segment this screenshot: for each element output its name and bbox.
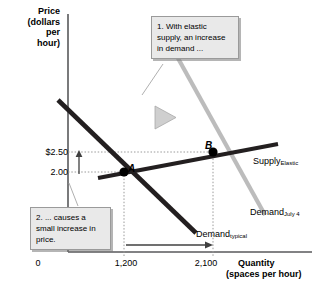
y-axis-title-line1: Price	[38, 6, 60, 16]
leader-callout-2	[69, 183, 78, 206]
x-tick-label-2100: 2,100	[188, 258, 224, 268]
point-b-label: B	[205, 140, 212, 151]
x-axis-title-line2: (spaces per hour)	[226, 269, 318, 280]
y-axis-title-line3: per	[46, 27, 60, 37]
curve-label-demand-july4: DemandJuly 4	[250, 207, 300, 217]
curve-label-demand-typical-name: Demand	[196, 229, 230, 239]
y-axis-title-line4: hour)	[37, 38, 60, 48]
chart-canvas: stop offset="0" stop-color="#4a4a4a"/ st…	[0, 0, 319, 290]
y-tick-label-200: 2.00	[26, 167, 68, 177]
curve-label-demand-typical: Demandtypical	[196, 229, 247, 239]
demand-shift-arrow	[84, 106, 176, 129]
callout-box-2: 2. ... causes a small increase in price.	[30, 207, 111, 250]
y-axis-title: Price (dollars per hour)	[4, 6, 60, 48]
x-tick-label-0: 0	[32, 258, 44, 268]
curve-label-demand-july-subscript: July 4	[284, 211, 300, 217]
y-axis-title-line2: (dollars	[27, 17, 60, 27]
callout-box-1: 1. With elastic supply, an increase in d…	[151, 16, 239, 59]
x-axis-title: Quantity (spaces per hour)	[238, 258, 318, 279]
y-tick-label-250: $2.50	[26, 147, 68, 157]
curve-demand-july4	[164, 33, 265, 215]
quantity-change-arrow	[126, 242, 213, 249]
price-change-arrow	[76, 150, 83, 174]
curve-label-demand-typical-subscript: typical	[230, 233, 247, 239]
leader-callout-1	[142, 64, 163, 95]
curve-label-supply-elastic: SupplyElastic	[253, 156, 298, 166]
curve-label-demand-july-name: Demand	[250, 207, 284, 217]
point-a-label: A	[128, 163, 135, 174]
x-axis-title-line1: Quantity	[238, 258, 275, 268]
curve-label-supply-name: Supply	[253, 156, 281, 166]
curve-label-supply-subscript: Elastic	[281, 160, 299, 166]
x-tick-label-1200: 1,200	[108, 258, 144, 268]
